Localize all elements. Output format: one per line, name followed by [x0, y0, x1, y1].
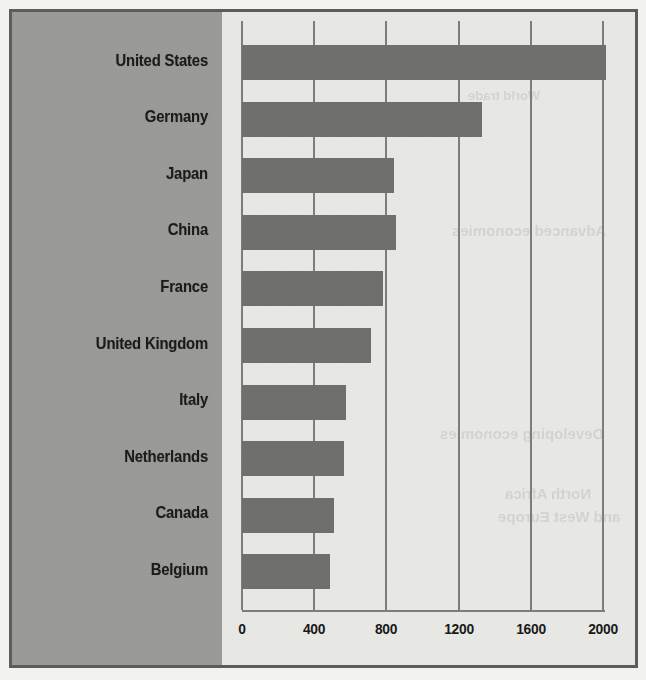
bar — [242, 271, 383, 306]
bar — [242, 498, 334, 533]
bar — [242, 158, 394, 193]
bar — [242, 45, 606, 80]
category-label: Canada — [32, 503, 208, 522]
bar — [242, 215, 396, 250]
category-label: China — [32, 220, 208, 239]
bar — [242, 554, 330, 589]
category-label: United Kingdom — [32, 334, 208, 353]
category-labels: United StatesGermanyJapanChinaFranceUnit… — [12, 21, 208, 597]
bar — [242, 385, 346, 420]
bar — [242, 441, 344, 476]
chart-screenshot: Advanced economies Developing economies … — [0, 0, 646, 680]
bar — [242, 102, 482, 137]
category-label: United States — [32, 51, 208, 70]
category-label: Netherlands — [32, 447, 208, 466]
category-label: Japan — [32, 164, 208, 183]
category-label: Germany — [32, 107, 208, 126]
plot-area: 0400800120016002000 — [222, 12, 635, 665]
category-label: Italy — [32, 390, 208, 409]
bars-layer — [222, 12, 635, 665]
bar — [242, 328, 371, 363]
category-label: France — [32, 277, 208, 296]
category-label: Belgium — [32, 560, 208, 579]
